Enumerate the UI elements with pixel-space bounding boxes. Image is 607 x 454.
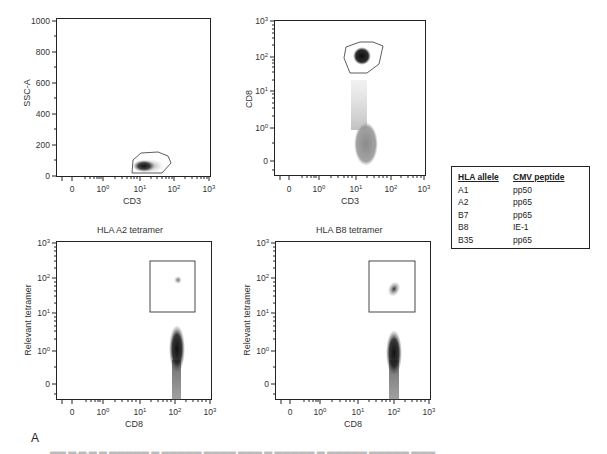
y-axis-title: Relevant tetramer	[242, 280, 252, 360]
svg-text:101: 101	[256, 308, 269, 318]
svg-text:102: 102	[388, 407, 401, 417]
svg-text:101: 101	[352, 407, 365, 417]
x-axis-title: CD8	[344, 419, 362, 429]
plot-4-graphics: 103 102 101 100 0 0 100 101 102 103	[0, 0, 607, 454]
figure-caption-cutoff: ▬▬ ▬.▬.▬ ▬ ▬▬▬▬▬ ▬ ▬▬▬▬▬ ▬▬▬▬ ▬▬▬ ▬ ▬▬▬▬…	[50, 447, 435, 454]
svg-text:103: 103	[256, 238, 269, 248]
svg-text:0: 0	[288, 407, 293, 417]
svg-text:0: 0	[264, 379, 269, 389]
svg-text:100: 100	[256, 346, 269, 356]
svg-text:100: 100	[314, 407, 327, 417]
svg-text:103: 103	[423, 407, 436, 417]
panel-letter: A	[31, 431, 39, 445]
svg-text:102: 102	[256, 273, 269, 283]
